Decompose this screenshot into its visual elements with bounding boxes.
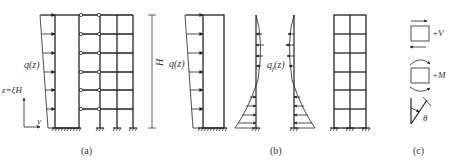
link-hinges-a — [79, 13, 100, 110]
interaction-force-frame — [286, 15, 315, 131]
ground-supports-a — [52, 128, 137, 131]
load-label-b: q(z) — [169, 59, 185, 69]
moment-sign-label: +M — [432, 71, 446, 80]
interaction-force-label: qf(z) — [267, 60, 285, 73]
panel-a — [24, 13, 156, 131]
shear-wall-a — [55, 15, 79, 128]
axis-y-label: y — [37, 117, 41, 126]
rotation-sign-convention — [411, 97, 431, 124]
shear-sign-label: +V — [432, 29, 444, 38]
load-profile-b — [185, 15, 203, 128]
caption-a: (a) — [81, 146, 92, 156]
ground-supports-b — [198, 128, 227, 131]
panel-c — [410, 21, 431, 124]
interaction-force-argument: (z) — [274, 59, 285, 70]
frame-b — [334, 15, 366, 128]
load-label-a: q(z) — [24, 60, 40, 70]
height-dimension — [148, 15, 156, 128]
shear-sign-convention — [410, 21, 429, 47]
beams-a — [79, 15, 133, 109]
diagram-canvas — [0, 0, 458, 161]
moment-sign-convention — [410, 60, 430, 92]
height-coordinate-label: z=ξH — [2, 86, 22, 95]
rotation-label: θ — [423, 114, 427, 123]
shear-wall-b — [203, 15, 224, 128]
load-profile-a — [40, 15, 55, 128]
interaction-force-wall — [235, 15, 264, 131]
ground-supports-frame-b — [330, 128, 370, 131]
caption-b: (b) — [270, 146, 282, 156]
caption-c: (c) — [413, 146, 424, 156]
height-dimension-label: H — [155, 59, 165, 66]
panel-b — [185, 15, 370, 131]
